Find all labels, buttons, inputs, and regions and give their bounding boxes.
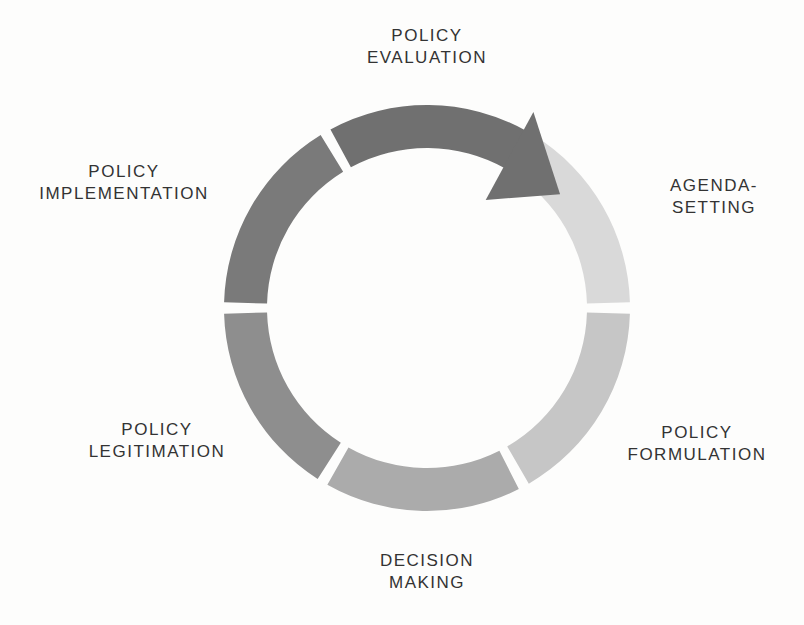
label-line: SETTING [670,197,758,219]
segment-policy-formulation [507,312,630,483]
label-agenda-setting: AGENDA- SETTING [670,175,758,219]
cycle-ring [224,105,630,511]
policy-cycle-diagram [0,0,804,625]
label-line: LEGITIMATION [89,441,226,463]
policy-cycle-page: POLICY EVALUATION AGENDA- SETTING POLICY… [0,0,804,625]
segment-policy-evaluation [330,105,527,169]
label-decision-making: DECISION MAKING [380,550,474,594]
label-policy-evaluation: POLICY EVALUATION [367,25,487,69]
label-line: FORMULATION [628,444,767,466]
label-line: POLICY [39,161,209,183]
label-line: POLICY [628,422,767,444]
label-line: MAKING [380,572,474,594]
label-line: POLICY [89,419,226,441]
label-line: POLICY [367,25,487,47]
label-policy-implementation: POLICY IMPLEMENTATION [39,161,209,205]
label-line: AGENDA- [670,175,758,197]
segment-policy-implementation [224,135,343,303]
label-policy-legitimation: POLICY LEGITIMATION [89,419,226,463]
label-line: EVALUATION [367,47,487,69]
label-line: DECISION [380,550,474,572]
segment-policy-legitimation [224,312,341,479]
label-line: IMPLEMENTATION [39,183,209,205]
segment-decision-making [327,447,518,511]
label-policy-formulation: POLICY FORMULATION [628,422,767,466]
